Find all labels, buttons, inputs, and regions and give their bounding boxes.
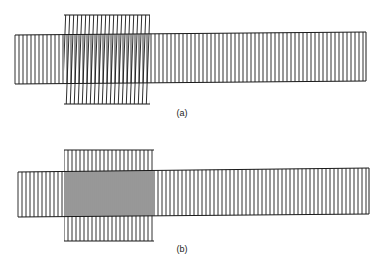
grating-overlay-diagram [0, 0, 381, 260]
overlay-grating-b [56, 140, 160, 251]
overlay-grating-a [54, 3, 158, 116]
panel-b-aligned-gratings [18, 140, 369, 251]
panel-a-misaligned-gratings [15, 3, 366, 116]
caption-b: (b) [177, 244, 188, 254]
caption-a: (a) [177, 108, 188, 118]
band-grating-b [18, 168, 369, 217]
